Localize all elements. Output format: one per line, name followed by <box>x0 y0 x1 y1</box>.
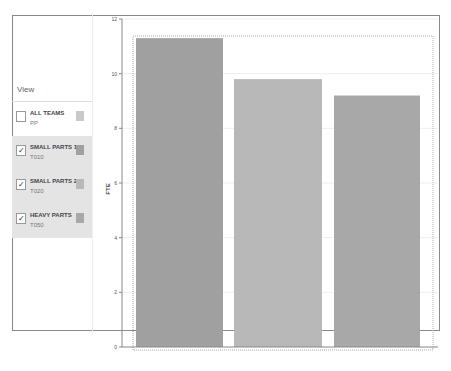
y-tick-label: 4 <box>114 235 117 241</box>
bar-1[interactable] <box>234 79 322 347</box>
bar-chart: 024681012 <box>0 0 451 371</box>
y-tick-label: 10 <box>111 71 117 77</box>
y-tick-label: 12 <box>111 16 117 22</box>
y-axis-label: FTE <box>105 183 111 194</box>
y-tick-label: 6 <box>114 180 117 186</box>
bar-0[interactable] <box>136 38 223 347</box>
y-tick-label: 8 <box>114 125 117 131</box>
y-tick-label: 2 <box>114 289 117 295</box>
y-tick-label: 0 <box>114 344 117 350</box>
bar-2[interactable] <box>334 96 420 347</box>
